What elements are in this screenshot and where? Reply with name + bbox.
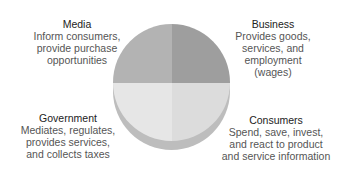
label-title: Business [225, 18, 321, 30]
label-title: Government [4, 112, 132, 124]
label-line: Provides goods, [225, 30, 321, 42]
label-line: Inform consumers, [18, 30, 136, 42]
label-line: Spend, save, invest, [210, 126, 341, 138]
quadrant-business [172, 24, 231, 83]
label-line: Mediates, regulates, [4, 124, 132, 136]
label-line: and collects taxes [4, 148, 132, 160]
label-line: services, and [225, 42, 321, 54]
label-media: Media Inform consumers, provide purchase… [18, 18, 136, 66]
label-line: and service information [210, 150, 341, 162]
label-line: opportunities [18, 54, 136, 66]
label-line: employment [225, 54, 321, 66]
label-line: and react to product [210, 138, 341, 150]
label-consumers: Consumers Spend, save, invest, and react… [210, 114, 341, 162]
label-title: Consumers [210, 114, 341, 126]
label-line: (wages) [225, 66, 321, 78]
label-business: Business Provides goods, services, and e… [225, 18, 321, 78]
label-line: provide purchase [18, 42, 136, 54]
label-government: Government Mediates, regulates, provides… [4, 112, 132, 160]
label-line: provides services, [4, 136, 132, 148]
label-title: Media [18, 18, 136, 30]
